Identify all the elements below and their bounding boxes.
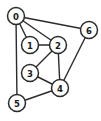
graph-node-0[interactable]: 0 [8, 8, 25, 25]
graph-node-1[interactable]: 1 [22, 37, 39, 54]
graph-node-circle-1[interactable] [22, 37, 39, 54]
graph-node-2[interactable]: 2 [50, 37, 67, 54]
graph-node-circle-3[interactable] [22, 65, 39, 82]
graph-node-circle-2[interactable] [50, 37, 67, 54]
graph-node-circle-4[interactable] [52, 80, 69, 97]
graph-node-5[interactable]: 5 [9, 95, 26, 112]
graph-node-circle-5[interactable] [9, 95, 26, 112]
graph-edge-0-5 [16, 16, 17, 103]
graph-diagram: 0123456 [0, 0, 101, 121]
graph-node-circle-0[interactable] [8, 8, 25, 25]
graph-node-circle-6[interactable] [81, 22, 98, 39]
graph-node-6[interactable]: 6 [81, 22, 98, 39]
graph-node-4[interactable]: 4 [52, 80, 69, 97]
graph-node-3[interactable]: 3 [22, 65, 39, 82]
